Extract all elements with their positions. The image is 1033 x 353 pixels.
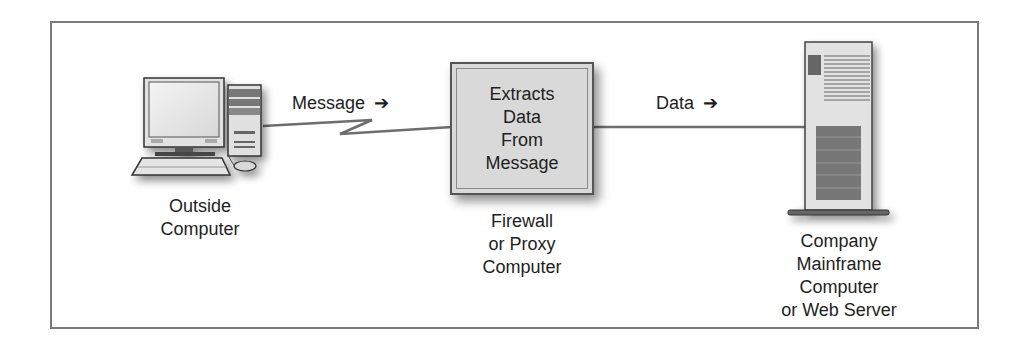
message-link xyxy=(263,120,452,134)
firewall-label: Firewall or Proxy Computer xyxy=(450,210,594,279)
label-line: Mainframe xyxy=(768,253,910,276)
label-line: Computer xyxy=(130,218,270,241)
label-line: or Proxy xyxy=(450,233,594,256)
label-line: Computer xyxy=(450,256,594,279)
label-line: Firewall xyxy=(450,210,594,233)
desktop-computer-icon xyxy=(132,78,261,175)
firewall-node-box: Extracts Data From Message xyxy=(450,62,594,195)
label-line: or Web Server xyxy=(768,299,910,322)
arrow-right-icon: ➔ xyxy=(374,93,389,113)
firewall-box-text-line: Message xyxy=(485,152,558,175)
tower-server-icon xyxy=(788,42,889,215)
outside-computer-label: Outside Computer xyxy=(130,195,270,241)
data-edge-label: Data ➔ xyxy=(656,92,718,114)
arrow-right-icon: ➔ xyxy=(703,93,718,113)
server-label: Company Mainframe Computer or Web Server xyxy=(768,230,910,322)
label-line: Outside xyxy=(130,195,270,218)
message-label: Message xyxy=(292,93,365,113)
firewall-box-text-line: Data xyxy=(503,106,541,129)
firewall-box-text-line: From xyxy=(501,129,543,152)
label-line: Computer xyxy=(768,276,910,299)
label-line: Company xyxy=(768,230,910,253)
firewall-box-text-line: Extracts xyxy=(489,83,554,106)
message-edge-label: Message ➔ xyxy=(292,92,389,114)
data-label: Data xyxy=(656,93,694,113)
